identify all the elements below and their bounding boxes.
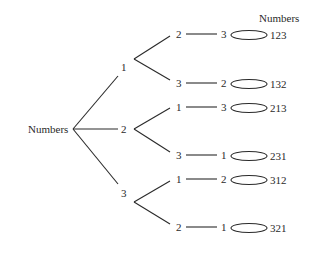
level2-node: 3 [176,149,182,161]
level3-node: 1 [221,149,227,161]
edge-1-2 [134,36,170,59]
results-header: Numbers [259,12,299,24]
permutation-tree-diagram: Numbers Numbers 1 2 3 2 3 1 3 1 2 3 2 3 … [0,0,315,257]
loop-icon [231,104,267,113]
level1-node: 1 [121,61,127,73]
level2-node: 3 [176,77,182,89]
loop-icon [231,176,267,185]
level2-node: 1 [176,173,182,185]
edge-1-3 [134,59,170,80]
level2-node: 1 [176,101,182,113]
edge-root-1 [73,76,118,129]
level1-node: 2 [121,123,127,135]
level3-node: 2 [221,173,227,185]
result-number: 312 [270,174,287,186]
loop-icon [231,152,267,161]
loop-icon [231,31,267,40]
level3-node: 1 [221,221,227,233]
edge-root-3 [73,129,118,184]
loop-icon [231,80,267,89]
edge-2-1 [134,108,170,129]
result-number: 231 [270,150,287,162]
level2-node: 2 [176,221,182,233]
edge-3-1 [134,181,170,202]
result-number: 213 [270,102,287,114]
level2-node: 2 [176,28,182,40]
level1-node: 3 [121,187,127,199]
loop-icon [231,224,267,233]
result-number: 123 [270,29,287,41]
level3-node: 2 [221,77,227,89]
result-number: 132 [270,78,287,90]
result-number: 321 [270,222,287,234]
level3-node: 3 [221,28,227,40]
edge-2-3 [134,129,170,152]
root-label: Numbers [28,123,68,135]
edge-3-2 [134,202,170,224]
level3-node: 3 [221,101,227,113]
